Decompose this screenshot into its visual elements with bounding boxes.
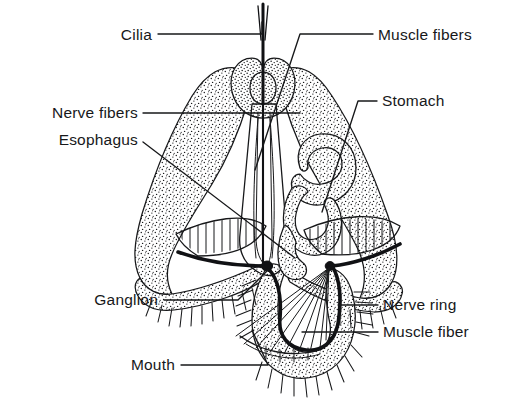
- label-muscle-fiber-text: Muscle fiber: [383, 323, 469, 340]
- label-nerve-ring-text: Nerve ring: [383, 296, 457, 313]
- label-esophagus-text: Esophagus: [59, 131, 138, 148]
- label-stomach-text: Stomach: [382, 92, 445, 109]
- label-mouth-text: Mouth: [131, 356, 175, 373]
- label-muscle-fibers-text: Muscle fibers: [378, 26, 472, 43]
- label-nerve-fibers-text: Nerve fibers: [52, 104, 138, 121]
- ganglion-right-node: [325, 262, 335, 271]
- diagram-root: Cilia Nerve fibers Esophagus Ganglion Mo…: [0, 0, 521, 407]
- label-ganglion-text: Ganglion: [94, 291, 158, 308]
- anatomical-diagram: Cilia Nerve fibers Esophagus Ganglion Mo…: [0, 0, 521, 407]
- label-cilia-text: Cilia: [121, 26, 152, 43]
- ganglion-left-node: [261, 261, 272, 271]
